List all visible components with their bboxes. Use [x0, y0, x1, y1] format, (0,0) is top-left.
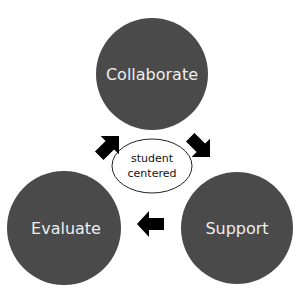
- node-support-label: Support: [205, 219, 268, 238]
- cycle-diagram: Collaborate Evaluate Support student cen…: [0, 0, 303, 294]
- arrow-left-icon: [137, 211, 164, 237]
- node-evaluate: Evaluate: [7, 171, 121, 285]
- node-support: Support: [181, 172, 293, 284]
- center-ellipse: student centered: [112, 139, 192, 193]
- node-collaborate: Collaborate: [96, 18, 208, 130]
- center-label-line1: student: [131, 152, 174, 165]
- node-evaluate-label: Evaluate: [31, 219, 101, 238]
- center-label-line2: centered: [128, 167, 177, 180]
- node-collaborate-label: Collaborate: [106, 65, 198, 84]
